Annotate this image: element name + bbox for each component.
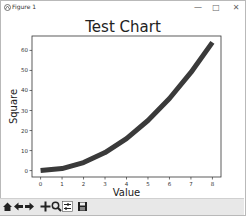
zoom-icon[interactable] [51, 201, 62, 212]
navigation-toolbar [0, 198, 244, 215]
x-tick-label: 1 [60, 181, 64, 187]
x-tick-label: 4 [125, 181, 129, 187]
pan-icon[interactable] [40, 201, 51, 212]
configure-subplots-icon[interactable] [62, 201, 73, 212]
x-tick-label: 5 [146, 181, 150, 187]
home-icon[interactable] [2, 201, 13, 212]
x-axis-label: Value [113, 187, 140, 198]
y-tick-label: 0 [25, 168, 29, 174]
x-tick-label: 0 [39, 181, 43, 187]
y-axis-label: Square [8, 89, 19, 124]
y-tick-label: 50 [21, 67, 28, 73]
y-tick-label: 40 [21, 87, 28, 93]
data-line [41, 42, 213, 170]
axes-frame [32, 36, 221, 177]
x-tick-label: 3 [103, 181, 107, 187]
x-tick-label: 6 [168, 181, 172, 187]
x-tick-label: 7 [189, 181, 193, 187]
y-tick-label: 10 [21, 148, 28, 154]
x-tick-label: 8 [211, 181, 215, 187]
forward-icon[interactable] [24, 201, 35, 212]
y-tick-label: 30 [21, 108, 28, 114]
save-icon[interactable] [77, 201, 88, 212]
y-tick-label: 60 [21, 47, 28, 53]
plot-area[interactable]: 0123456780102030405060ValueSquare [0, 0, 246, 216]
x-tick-label: 2 [82, 181, 86, 187]
back-icon[interactable] [13, 201, 24, 212]
y-tick-label: 20 [21, 128, 28, 134]
